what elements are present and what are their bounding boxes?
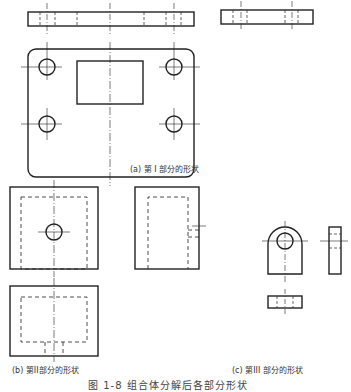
- part-b-front-view: [10, 180, 98, 277]
- part-b-caption: (b) 第II部分的形状: [12, 364, 79, 375]
- part-b-top-view: [10, 278, 98, 362]
- part-b-side-view: [135, 187, 206, 269]
- part-a-side-view: [221, 1, 313, 31]
- part-c-front-view: [262, 221, 308, 282]
- part-c-top-view: [268, 289, 302, 316]
- part-a-caption: (a) 第 I 部分的形状: [130, 163, 199, 174]
- part-c-side-view: [320, 227, 348, 274]
- figure-caption: 图 1-8 组合体分解后各部分形状: [88, 377, 248, 392]
- part-a-front-view: [28, 3, 194, 34]
- part-c-caption: (c) 第III 部分的形状: [232, 364, 303, 375]
